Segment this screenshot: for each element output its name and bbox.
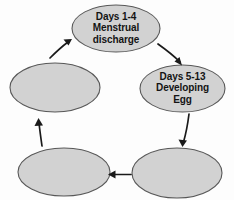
- arrow-left-to-top: [50, 39, 72, 58]
- cycle-diagram-canvas: [0, 0, 234, 200]
- node-blank-left: [10, 63, 100, 112]
- node-blank-bottom-left: [18, 148, 110, 196]
- arrow-right-to-bottom-right: [179, 114, 190, 147]
- arrow-bottom-left-to-left: [35, 118, 44, 146]
- arrow-top-to-right: [158, 44, 182, 66]
- node-developing-egg: [140, 65, 225, 112]
- arrow-bottom-right-to-bottom-left: [108, 171, 131, 179]
- node-blank-bottom-right: [132, 148, 222, 198]
- node-menstrual-discharge: [72, 5, 160, 52]
- menstrual-cycle-diagram: Days 1-4 Menstrual discharge Days 5-13 D…: [0, 0, 234, 200]
